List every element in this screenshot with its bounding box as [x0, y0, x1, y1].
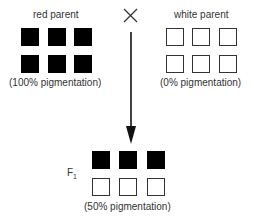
filled-square [92, 151, 110, 169]
filled-square [147, 151, 165, 169]
f1-caption: (50% pigmentation) [84, 201, 171, 212]
arrow-down-icon [126, 32, 136, 144]
cross-icon [124, 9, 137, 22]
f1-label: F1 [67, 167, 77, 180]
empty-square [147, 178, 165, 196]
empty-square [92, 178, 110, 196]
filled-square [119, 151, 137, 169]
empty-square [119, 178, 137, 196]
